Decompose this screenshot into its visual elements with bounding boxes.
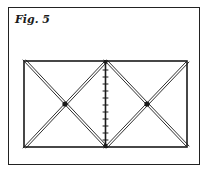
left-center-dot [62,101,67,106]
divider-top-dot [104,60,108,64]
fold-diagram [0,0,208,177]
right-center-dot [144,101,149,106]
divider-bottom-dot [103,144,107,148]
